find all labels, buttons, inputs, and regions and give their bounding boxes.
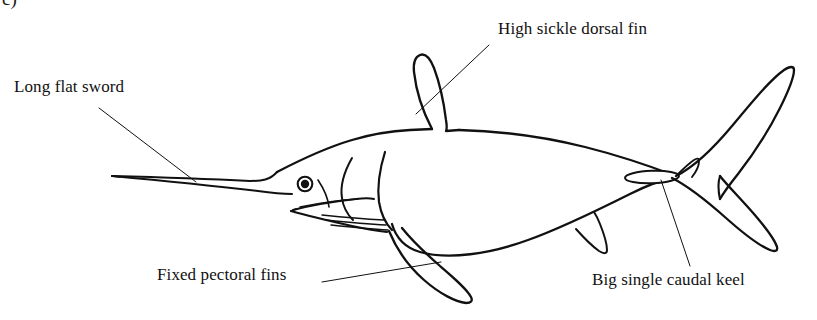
label-big-single-caudal-keel: Big single caudal keel: [592, 271, 745, 289]
caudal-fin-lower-lobe: [672, 176, 777, 251]
head-cheek-line: [341, 158, 353, 220]
sword-tip: [112, 176, 120, 177]
body-dorsal-profile: [277, 129, 432, 172]
body-ventral-profile: [392, 178, 672, 256]
jaw-tip-fold: [291, 209, 296, 211]
gill-line-3: [331, 225, 388, 230]
dorsal-fin: [414, 55, 459, 131]
head-opercle-line: [378, 152, 392, 230]
label-fixed-pectoral-fins: Fixed pectoral fins: [157, 266, 286, 284]
caudal-fin-upper-lobe: [676, 67, 794, 199]
lower-jaw-upper-edge: [293, 198, 374, 210]
eye-pupil: [301, 180, 309, 188]
leader-line-sword: [99, 108, 196, 182]
leader-line-keel: [661, 180, 690, 266]
caudal-keel: [625, 170, 679, 184]
label-long-flat-sword: Long flat sword: [14, 78, 124, 96]
caudal-fin-fork-notch: [719, 176, 721, 199]
label-high-sickle-dorsal-fin: High sickle dorsal fin: [498, 20, 647, 38]
sword-upper-edge: [112, 172, 277, 181]
figure-container: c): [0, 0, 817, 320]
pectoral-fin: [389, 228, 472, 303]
body-dorsal-profile-rear: [459, 130, 676, 176]
